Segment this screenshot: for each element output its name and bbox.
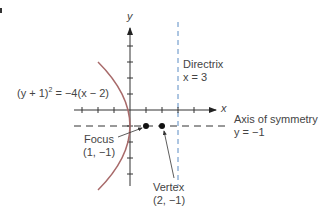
axis-of-symmetry-title: Axis of symmetry: [234, 113, 318, 125]
focus-point: [143, 123, 149, 129]
focus-title: Focus: [84, 133, 114, 145]
vertex-coords: (2, −1): [153, 194, 185, 206]
edge-mark: [0, 8, 2, 13]
parabola-diagram: y x (y + 1)2 = −4(x − 2) Directrix x = 3…: [0, 0, 332, 218]
vertex-arrow: [164, 131, 174, 178]
vertex-title: Vertex: [153, 181, 185, 193]
equation-label: (y + 1)2 = −4(x − 2): [17, 86, 109, 99]
directrix-title: Directrix: [183, 58, 224, 70]
focus-coords: (1, −1): [83, 146, 115, 158]
directrix-equation: x = 3: [183, 71, 207, 83]
x-axis-label: x: [220, 102, 227, 114]
y-axis-label: y: [126, 10, 134, 22]
vertex-point: [159, 123, 165, 129]
axis-of-symmetry-equation: y = −1: [234, 126, 265, 138]
